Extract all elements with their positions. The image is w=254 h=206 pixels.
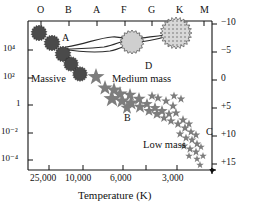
annotation-C: C bbox=[206, 127, 213, 137]
data-point bbox=[192, 148, 201, 156]
annotation-low-mass: Low mass bbox=[143, 140, 186, 151]
temperature-tick-10000: 10,000 bbox=[65, 174, 91, 184]
x-axis-title: Temperature (K) bbox=[78, 190, 151, 201]
magnitude-tick-p15: +15 bbox=[221, 158, 236, 168]
annotation-massive: Massive bbox=[31, 74, 66, 85]
left-axis-ticks bbox=[28, 50, 33, 160]
right-axis-ticks bbox=[212, 24, 217, 164]
data-point bbox=[31, 25, 47, 41]
y-axis-arrowhead bbox=[209, 169, 214, 174]
magnitude-tick-p5: +5 bbox=[221, 102, 231, 112]
magnitude-tick-m10: −10 bbox=[221, 18, 236, 28]
luminosity-tick-1e-2: 10⁻² bbox=[1, 127, 18, 136]
data-point bbox=[166, 116, 176, 125]
data-point bbox=[87, 68, 104, 84]
spectral-tick-G: G bbox=[148, 5, 155, 15]
data-point bbox=[147, 91, 157, 100]
temperature-tick-6000: 6,000 bbox=[110, 174, 131, 184]
magnitude-tick-m5: −5 bbox=[221, 46, 231, 56]
luminosity-tick-1: 1 bbox=[16, 99, 21, 108]
annotation-A: A bbox=[62, 33, 69, 43]
data-point bbox=[44, 35, 60, 51]
evolutionary-track bbox=[62, 34, 174, 52]
spectral-tick-K: K bbox=[176, 5, 183, 15]
data-point bbox=[199, 152, 207, 159]
spectral-tick-A: A bbox=[93, 5, 100, 15]
data-point bbox=[160, 17, 192, 49]
data-point bbox=[196, 161, 204, 168]
magnitude-tick-p10: +10 bbox=[221, 130, 236, 140]
hr-diagram-figure: O B A F G K M 10⁴ 10² 1 10⁻² 10⁻⁴ −10 −5… bbox=[0, 0, 254, 206]
data-point bbox=[170, 92, 179, 100]
temperature-tick-3000: 3,000 bbox=[162, 174, 183, 184]
temperature-tick-25000: 25,000 bbox=[30, 174, 56, 184]
magnitude-tick-0: 0 bbox=[221, 74, 226, 84]
spectral-tick-B: B bbox=[65, 5, 72, 15]
data-point bbox=[171, 108, 181, 117]
spectral-tick-O: O bbox=[37, 5, 44, 15]
spectral-tick-M: M bbox=[200, 5, 209, 15]
data-point bbox=[177, 95, 186, 103]
luminosity-tick-1e2: 10² bbox=[3, 72, 15, 81]
data-point bbox=[185, 152, 193, 159]
data-point bbox=[168, 101, 178, 110]
data-point bbox=[193, 155, 201, 162]
data-point bbox=[161, 96, 171, 105]
data-point bbox=[153, 93, 163, 102]
annotation-B: B bbox=[124, 113, 131, 123]
luminosity-tick-1e-4: 10⁻⁴ bbox=[1, 154, 18, 163]
spectral-tick-F: F bbox=[121, 5, 127, 15]
data-point bbox=[120, 30, 144, 54]
annotation-D: D bbox=[145, 61, 152, 71]
luminosity-tick-1e4: 10⁴ bbox=[3, 44, 15, 53]
annotation-medium-mass: Medium mass bbox=[112, 74, 171, 85]
bottom-axis-ticks bbox=[49, 165, 177, 170]
